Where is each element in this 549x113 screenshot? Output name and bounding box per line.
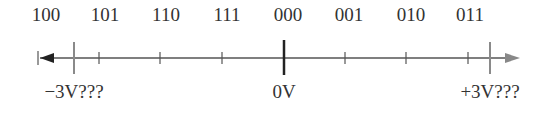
right-arrow-icon: [505, 53, 520, 63]
voltage-label-zero: 0V: [272, 81, 295, 103]
voltage-label-neg: −3V???: [44, 81, 103, 103]
left-arrow-icon: [40, 53, 54, 63]
voltage-label-pos: +3V???: [460, 81, 519, 103]
